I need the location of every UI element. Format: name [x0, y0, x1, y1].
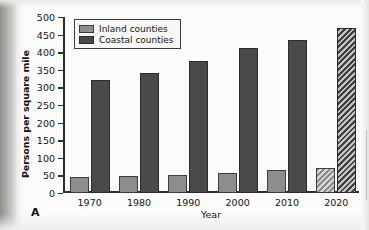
- bar-inland-1980: [119, 176, 138, 193]
- legend-swatch-coastal: [79, 36, 94, 44]
- y-tick-mark: [58, 140, 63, 141]
- bar-chart-figure: Persons per square mile 0501001502002503…: [0, 0, 369, 230]
- legend-label-inland: Inland counties: [99, 24, 168, 34]
- x-tick-label-1990: 1990: [176, 197, 200, 208]
- y-tick-label: 100: [37, 152, 55, 163]
- y-tick-label: 0: [49, 188, 55, 199]
- bar-coastal-2010: [288, 40, 307, 193]
- y-tick-mark: [58, 158, 63, 159]
- y-tick-label: 200: [37, 117, 55, 128]
- bar-coastal-1990: [189, 61, 208, 193]
- chart-legend: Inland counties Coastal counties: [74, 19, 181, 49]
- x-axis-label: Year: [63, 209, 359, 220]
- bar-inland-2020: [316, 168, 335, 193]
- legend-label-coastal: Coastal counties: [99, 35, 174, 45]
- y-tick-mark: [58, 175, 63, 176]
- y-tick-mark: [58, 52, 63, 53]
- y-tick-mark: [58, 70, 63, 71]
- legend-item-inland: Inland counties: [79, 23, 174, 34]
- x-tick-label-1980: 1980: [127, 197, 151, 208]
- y-tick-label: 400: [37, 47, 55, 58]
- x-tick-label-2020: 2020: [324, 197, 348, 208]
- y-tick-label: 300: [37, 82, 55, 93]
- y-tick-mark: [58, 193, 63, 194]
- legend-swatch-inland: [79, 25, 94, 33]
- x-tick-label-2000: 2000: [226, 197, 250, 208]
- x-tick-label-2010: 2010: [275, 197, 299, 208]
- y-tick-label: 450: [37, 29, 55, 40]
- bar-coastal-2020: [337, 28, 356, 193]
- y-tick-mark: [58, 35, 63, 36]
- y-tick-label: 350: [37, 64, 55, 75]
- bar-inland-2000: [218, 173, 237, 193]
- x-tick-label-1970: 1970: [78, 197, 102, 208]
- bar-coastal-2000: [239, 48, 258, 193]
- y-tick-label: 500: [37, 12, 55, 23]
- y-tick-mark: [58, 105, 63, 106]
- bar-inland-1990: [168, 175, 187, 193]
- bar-coastal-1980: [140, 73, 159, 193]
- y-tick-mark: [58, 123, 63, 124]
- y-axis-line: [63, 17, 65, 193]
- y-tick-label: 150: [37, 135, 55, 146]
- y-tick-mark: [58, 87, 63, 88]
- y-axis-label: Persons per square mile: [20, 28, 34, 178]
- y-tick-label: 250: [37, 100, 55, 111]
- bar-coastal-1970: [91, 80, 110, 193]
- bar-inland-2010: [267, 170, 286, 193]
- y-tick-label: 50: [43, 170, 55, 181]
- y-tick-mark: [58, 17, 63, 18]
- legend-item-coastal: Coastal counties: [79, 34, 174, 45]
- bar-inland-1970: [70, 177, 89, 193]
- panel-label-a: A: [31, 206, 40, 219]
